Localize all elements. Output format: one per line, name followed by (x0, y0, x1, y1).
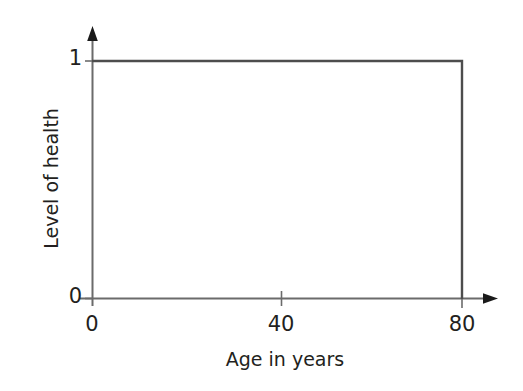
y-axis-title: Level of health (41, 78, 62, 278)
health-step-curve (92, 61, 462, 299)
chart-figure: 1 0 0 40 80 Age in years Level of health (0, 0, 523, 391)
x-axis-tick-label-80: 80 (432, 314, 492, 335)
arrow-up-icon (87, 26, 98, 41)
x-axis-tick-label-40: 40 (251, 314, 311, 335)
y-axis-tick-label-1: 1 (52, 48, 82, 69)
x-axis-tick-label-0: 0 (62, 314, 122, 335)
y-axis-tick-label-0: 0 (52, 286, 82, 307)
x-axis-title: Age in years (185, 349, 385, 370)
arrow-right-icon (483, 293, 498, 304)
